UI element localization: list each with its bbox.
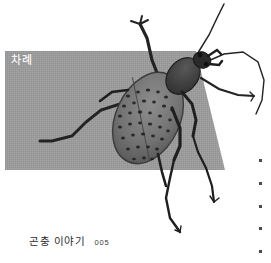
bullet-dot-2	[259, 182, 262, 185]
book-page: 차례	[0, 0, 271, 263]
bullet-dot-3	[259, 205, 262, 208]
gray-panel	[0, 0, 271, 263]
insect-legs-front	[100, 90, 219, 232]
caption-title: 곤충 이야기	[29, 233, 86, 248]
elytra-spots	[118, 88, 174, 160]
insect-body	[99, 49, 222, 175]
caption: 곤충 이야기 005	[29, 233, 109, 248]
bullet-dot-1	[259, 159, 262, 162]
insect-photo	[0, 0, 271, 263]
insect-legs-back	[40, 4, 264, 141]
section-label-contents: 차례	[11, 54, 32, 67]
bullet-dot-5	[259, 250, 262, 253]
caption-page-number: 005	[95, 238, 110, 247]
bullet-dot-rail	[254, 159, 266, 253]
bullet-dot-4	[259, 227, 262, 230]
